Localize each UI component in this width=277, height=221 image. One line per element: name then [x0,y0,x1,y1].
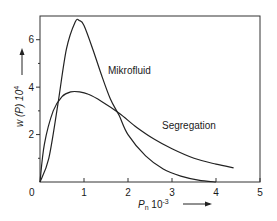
y-axis: 246 [28,34,40,158]
x-axis: 12345 [81,178,263,198]
y-axis-arrowhead-icon [20,48,25,55]
svg-text:w (P) 104: w (P) 104 [13,86,25,127]
x-tick-label: 3 [169,187,175,198]
x-tick-label: 2 [125,187,131,198]
y-tick-label: 4 [28,82,34,93]
y-tick-label: 6 [28,34,34,45]
y-tick-label: 2 [28,129,34,140]
x-axis-arrowhead-icon [205,202,212,207]
x-tick-label: 5 [257,187,263,198]
segregation-curve [40,91,234,182]
plot-frame [40,16,260,182]
x-tick-label: 1 [81,187,87,198]
distribution-chart: 12345 246 Mikrofluid Segregation 0 Pn 10… [0,0,277,221]
svg-text:Pn 10-3: Pn 10-3 [138,198,169,211]
origin-label: 0 [29,187,35,198]
x-axis-label: Pn 10-3 [138,198,212,211]
x-axis-label-exp: -3 [162,198,168,205]
mikrofluid-label: Mikrofluid [108,65,151,76]
y-axis-label-main: w (P) 10 [14,89,25,127]
x-axis-label-rest: 10 [149,199,163,210]
y-axis-label: w (P) 104 [13,86,25,127]
mikrofluid-curve [40,19,216,182]
y-axis-label-exp: 4 [13,86,20,90]
segregation-label: Segregation [162,120,216,131]
x-tick-label: 4 [213,187,219,198]
